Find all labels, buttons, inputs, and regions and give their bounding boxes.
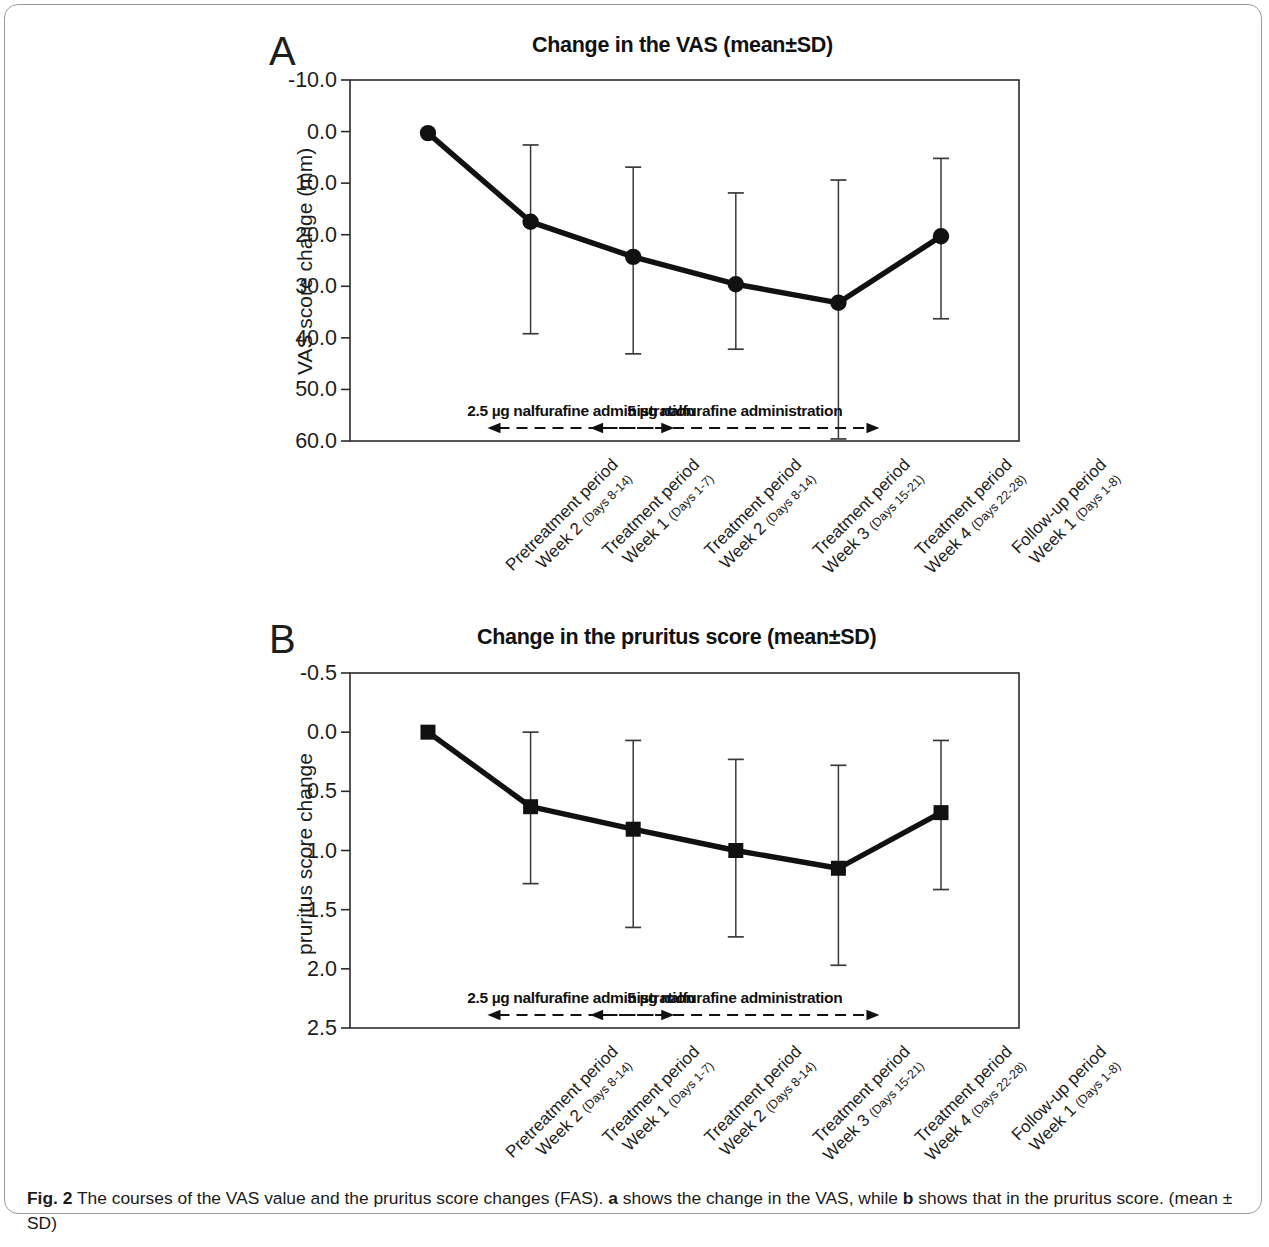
data-point-marker xyxy=(625,249,641,265)
panel-a: A Change in the VAS (mean±SD) -10.00.010… xyxy=(5,5,1263,605)
error-bar xyxy=(728,193,744,349)
ytick-label: 0.0 xyxy=(307,720,337,745)
panel-b-letter: B xyxy=(269,619,296,659)
caption-text: The courses of the VAS value and the pru… xyxy=(72,1188,608,1208)
series-line xyxy=(428,732,941,868)
panel-b: B Change in the pruritus score (mean±SD)… xyxy=(5,605,1263,1185)
ytick-label: 2.5 xyxy=(307,1016,337,1041)
data-point-marker xyxy=(522,214,538,230)
panel-b-title: Change in the pruritus score (mean±SD) xyxy=(477,625,876,650)
ytick-label: 50.0 xyxy=(295,377,337,402)
data-point-marker xyxy=(728,276,744,292)
data-point-marker xyxy=(933,228,949,244)
panel-a-letter: A xyxy=(269,31,296,71)
series-line xyxy=(428,133,941,303)
data-point-marker xyxy=(420,125,436,141)
data-point-marker xyxy=(626,822,641,837)
ytick-label: 2.0 xyxy=(307,956,337,981)
y-axis-title: VAS score change (mm) xyxy=(293,148,317,375)
data-point-marker xyxy=(728,843,743,858)
caption-bold-b: b xyxy=(903,1188,914,1208)
caption-bold-a: a xyxy=(608,1188,618,1208)
data-point-marker xyxy=(523,799,538,814)
error-bar xyxy=(523,145,539,334)
y-axis-title: pruritus score change xyxy=(293,753,317,955)
figure-card: A Change in the VAS (mean±SD) -10.00.010… xyxy=(4,4,1262,1214)
annotation-label: 5 µg nalfurafine administration xyxy=(627,402,842,420)
caption-mid: shows the change in the VAS, while xyxy=(618,1188,903,1208)
ytick-label: 0.0 xyxy=(307,119,337,144)
panel-a-title: Change in the VAS (mean±SD) xyxy=(532,33,833,58)
data-point-marker xyxy=(831,861,846,876)
ytick-label: 60.0 xyxy=(295,429,337,454)
ytick-label: -10.0 xyxy=(288,68,337,93)
data-point-marker xyxy=(420,725,435,740)
annotation-label: 5 µg nalfurafine administration xyxy=(627,989,842,1007)
ytick-label: -0.5 xyxy=(300,661,337,686)
data-point-marker xyxy=(934,805,949,820)
figure-caption: Fig. 2 The courses of the VAS value and … xyxy=(27,1186,1259,1235)
data-point-marker xyxy=(830,295,846,311)
caption-label: Fig. 2 xyxy=(27,1188,72,1208)
